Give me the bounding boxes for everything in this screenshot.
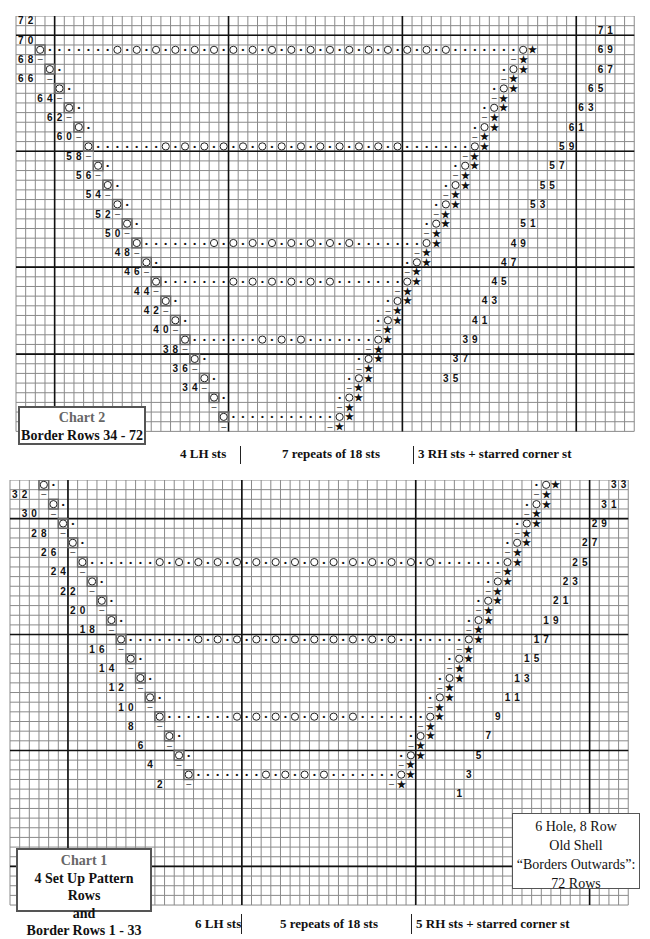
svg-text:–: – xyxy=(67,112,72,122)
svg-text:1: 1 xyxy=(118,702,124,713)
svg-text:•: • xyxy=(348,335,351,344)
svg-text:4: 4 xyxy=(491,276,497,287)
svg-text:3: 3 xyxy=(12,489,18,500)
svg-text:•: • xyxy=(396,277,399,286)
divider xyxy=(411,914,412,934)
svg-text:•: • xyxy=(323,712,326,721)
svg-text:★: ★ xyxy=(403,295,412,306)
svg-text:0: 0 xyxy=(66,131,72,142)
svg-text:3: 3 xyxy=(22,508,28,519)
svg-text:–: – xyxy=(109,625,114,635)
svg-text:–: – xyxy=(134,248,139,258)
svg-text:•: • xyxy=(493,45,496,54)
svg-text:1: 1 xyxy=(80,624,86,635)
svg-text:•: • xyxy=(145,142,148,151)
info-line-1: 6 Hole, 8 Row xyxy=(513,818,639,837)
svg-text:3: 3 xyxy=(462,334,468,345)
svg-text:5: 5 xyxy=(453,373,459,384)
svg-text:•: • xyxy=(358,277,361,286)
svg-text:3: 3 xyxy=(601,499,607,510)
svg-text:–: – xyxy=(138,683,143,693)
svg-text:•: • xyxy=(81,538,84,547)
svg-text:★: ★ xyxy=(528,44,537,55)
svg-text:★: ★ xyxy=(451,199,460,210)
svg-text:5: 5 xyxy=(476,750,482,761)
svg-text:•: • xyxy=(280,412,283,421)
svg-text:•: • xyxy=(164,277,167,286)
svg-text:•: • xyxy=(290,335,293,344)
svg-text:•: • xyxy=(483,45,486,54)
svg-text:•: • xyxy=(516,519,519,528)
svg-text:•: • xyxy=(193,335,196,344)
svg-text:•: • xyxy=(358,45,361,54)
svg-text:★: ★ xyxy=(374,353,383,364)
svg-text:•: • xyxy=(226,635,229,644)
svg-text:•: • xyxy=(135,142,138,151)
svg-text:6: 6 xyxy=(86,170,92,181)
svg-text:–: – xyxy=(434,209,439,219)
svg-text:•: • xyxy=(164,45,167,54)
svg-text:•: • xyxy=(139,558,142,567)
svg-text:•: • xyxy=(319,335,322,344)
svg-text:–: – xyxy=(96,170,101,180)
svg-text:•: • xyxy=(120,616,123,625)
svg-text:•: • xyxy=(342,770,345,779)
svg-text:★: ★ xyxy=(406,769,415,780)
svg-text:•: • xyxy=(245,712,248,721)
svg-text:•: • xyxy=(444,181,447,190)
svg-text:8: 8 xyxy=(173,344,179,355)
svg-text:•: • xyxy=(280,277,283,286)
svg-text:•: • xyxy=(425,219,428,228)
svg-text:•: • xyxy=(352,770,355,779)
svg-text:•: • xyxy=(319,45,322,54)
svg-text:•: • xyxy=(512,45,515,54)
info-line-3: “Borders Outwards”: xyxy=(513,856,639,875)
svg-text:2: 2 xyxy=(41,547,47,558)
svg-text:•: • xyxy=(387,142,390,151)
svg-text:★: ★ xyxy=(509,83,518,94)
svg-text:•: • xyxy=(222,45,225,54)
svg-text:•: • xyxy=(245,635,248,644)
svg-text:–: – xyxy=(466,625,471,635)
svg-text:•: • xyxy=(409,731,412,740)
svg-text:–: – xyxy=(105,190,110,200)
svg-text:–: – xyxy=(157,721,162,731)
svg-text:•: • xyxy=(400,712,403,721)
svg-text:–: – xyxy=(212,402,217,412)
svg-text:9: 9 xyxy=(601,518,607,529)
svg-text:8: 8 xyxy=(76,151,82,162)
svg-text:•: • xyxy=(294,770,297,779)
svg-text:4: 4 xyxy=(60,566,66,577)
svg-text:•: • xyxy=(197,770,200,779)
svg-text:•: • xyxy=(207,558,210,567)
svg-text:•: • xyxy=(329,335,332,344)
svg-text:–: – xyxy=(80,567,85,577)
svg-text:•: • xyxy=(377,277,380,286)
svg-text:•: • xyxy=(245,558,248,567)
chart-2-title: Chart 2 xyxy=(20,409,144,427)
svg-text:•: • xyxy=(467,616,470,625)
svg-text:★: ★ xyxy=(464,653,473,664)
svg-text:•: • xyxy=(155,142,158,151)
svg-text:•: • xyxy=(168,558,171,567)
svg-text:★: ★ xyxy=(432,238,441,249)
svg-text:–: – xyxy=(144,267,149,277)
chart-1-subtitle-2: and xyxy=(18,905,150,923)
svg-text:6: 6 xyxy=(569,122,575,133)
svg-text:•: • xyxy=(97,45,100,54)
svg-text:•: • xyxy=(284,558,287,567)
svg-text:•: • xyxy=(187,635,190,644)
svg-text:•: • xyxy=(473,45,476,54)
svg-text:•: • xyxy=(251,142,254,151)
svg-text:6: 6 xyxy=(51,547,57,558)
svg-text:1: 1 xyxy=(607,25,613,36)
svg-text:3: 3 xyxy=(466,769,472,780)
svg-text:•: • xyxy=(232,335,235,344)
svg-text:5: 5 xyxy=(86,189,92,200)
svg-text:•: • xyxy=(371,712,374,721)
svg-text:–: – xyxy=(515,528,520,538)
svg-text:•: • xyxy=(406,258,409,267)
svg-text:•: • xyxy=(319,239,322,248)
svg-text:•: • xyxy=(271,142,274,151)
svg-text:4: 4 xyxy=(134,286,140,297)
